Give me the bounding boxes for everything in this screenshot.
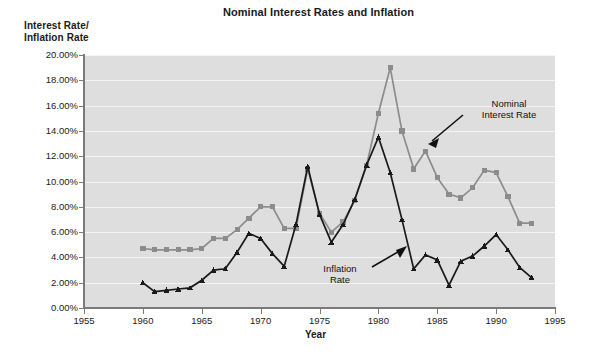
data-point-marker <box>517 221 522 226</box>
annotation-inflation-rate: Inflation Rate <box>309 263 371 285</box>
data-point-marker <box>482 168 487 173</box>
data-point-marker <box>399 128 404 133</box>
data-point-marker <box>529 221 534 226</box>
data-point-marker <box>152 247 157 252</box>
chart-container: Nominal Interest Rates and Inflation Int… <box>0 0 591 356</box>
data-point-marker <box>235 227 240 232</box>
data-point-marker <box>223 236 228 241</box>
nominal-arrow-line <box>432 115 463 141</box>
series-line <box>143 68 532 250</box>
data-point-marker <box>293 222 299 228</box>
data-point-marker <box>329 230 334 235</box>
series-nominal-interest-rate <box>140 65 534 252</box>
data-point-marker <box>270 204 275 209</box>
data-point-marker <box>423 149 428 154</box>
data-point-marker <box>376 111 381 116</box>
annotation-arrows-group <box>372 115 463 267</box>
data-point-marker <box>388 65 393 70</box>
data-point-marker <box>258 204 263 209</box>
data-point-marker <box>387 170 393 176</box>
annotation-nominal-interest-rate: Nominal Interest Rate <box>466 98 552 120</box>
data-point-marker <box>211 236 216 241</box>
data-point-marker <box>187 247 192 252</box>
data-point-marker <box>505 194 510 199</box>
data-point-marker <box>176 247 181 252</box>
data-point-marker <box>411 166 416 171</box>
data-point-marker <box>494 170 499 175</box>
data-point-marker <box>446 282 452 288</box>
x-axis-title: Year <box>0 329 591 340</box>
data-point-marker <box>246 230 252 236</box>
data-point-marker <box>140 246 145 251</box>
inflation-arrow-head <box>396 246 407 258</box>
data-point-marker <box>375 134 381 140</box>
data-point-marker <box>493 232 499 238</box>
data-point-marker <box>282 226 287 231</box>
data-point-marker <box>164 247 169 252</box>
data-point-marker <box>470 185 475 190</box>
data-point-marker <box>140 280 146 286</box>
data-point-marker <box>399 216 405 222</box>
data-point-marker <box>435 175 440 180</box>
data-point-marker <box>423 252 429 258</box>
data-point-marker <box>305 163 311 169</box>
data-point-marker <box>458 195 463 200</box>
data-point-marker <box>446 192 451 197</box>
data-point-marker <box>246 216 251 221</box>
x-axis-title-text: Year <box>265 329 326 340</box>
series-overlay <box>0 0 591 356</box>
data-point-marker <box>199 246 204 251</box>
